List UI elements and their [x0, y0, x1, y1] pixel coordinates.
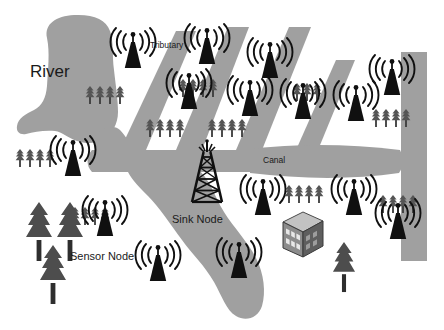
- pine-tree: [40, 245, 66, 304]
- sensor-node[interactable]: [82, 196, 127, 236]
- sink-node-label: Sink Node: [172, 213, 223, 225]
- tree-cluster: [208, 119, 247, 137]
- tributary-label: Tributary: [150, 40, 183, 50]
- sensor-node[interactable]: [110, 28, 155, 68]
- river-label: River: [30, 62, 70, 82]
- canal-vertical: [401, 52, 427, 261]
- sensor-node[interactable]: [240, 175, 285, 215]
- network-diagram: River Tributary Canal Sink Node Sensor N…: [0, 0, 444, 330]
- sensor-node-label: Sensor Node: [70, 250, 134, 262]
- tree-cluster: [16, 149, 55, 167]
- canal-label: Canal: [263, 155, 285, 165]
- pine-tree: [333, 242, 355, 292]
- tributary-3: [236, 27, 311, 150]
- data-center-building[interactable]: [283, 212, 323, 257]
- tree-cluster: [285, 185, 324, 203]
- diagram-canvas: [0, 0, 444, 330]
- sensor-node[interactable]: [331, 175, 376, 215]
- sensor-node[interactable]: [135, 241, 180, 281]
